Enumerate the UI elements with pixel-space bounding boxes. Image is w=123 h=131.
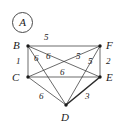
graph-vertex bbox=[98, 75, 101, 78]
vertex-label-c: C bbox=[12, 72, 19, 83]
edge-weight-b-f: 5 bbox=[44, 33, 49, 42]
graph-edge bbox=[28, 77, 66, 105]
edge-weight-b-c: 1 bbox=[16, 57, 21, 66]
vertex-label-e: E bbox=[106, 72, 113, 83]
graph-vertex bbox=[26, 44, 29, 47]
edge-weight-c-e: 6 bbox=[60, 68, 65, 77]
edge-weight-b-d: 6 bbox=[46, 52, 51, 61]
graph-vertex bbox=[64, 103, 67, 106]
vertex-label-f: F bbox=[106, 40, 113, 51]
edge-weight-c-d: 6 bbox=[39, 92, 44, 101]
edge-weight-d-f: 5 bbox=[88, 57, 93, 66]
edge-weight-d-e: 3 bbox=[85, 92, 90, 101]
edge-weight-f-e: 2 bbox=[106, 57, 111, 66]
graph-vertex bbox=[26, 75, 29, 78]
graph-figure: A BFCED5126636655 bbox=[0, 0, 123, 131]
edge-weight-b-e: 6 bbox=[34, 54, 39, 63]
vertex-label-b: B bbox=[13, 40, 20, 51]
graph-vertex bbox=[98, 44, 101, 47]
edge-weight-c-f: 5 bbox=[76, 52, 81, 61]
graph-edge bbox=[66, 77, 100, 105]
vertex-label-d: D bbox=[61, 112, 69, 123]
graph-edge bbox=[66, 46, 100, 105]
